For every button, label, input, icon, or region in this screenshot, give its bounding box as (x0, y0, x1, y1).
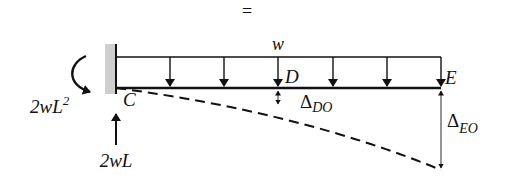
fixed-wall-support (105, 44, 116, 94)
deflection-d-label: ΔDO (300, 91, 332, 115)
equals-sign: = (242, 1, 252, 21)
load-label: w (272, 34, 284, 54)
force-reaction-label: 2wL (100, 150, 133, 171)
moment-reaction-label: 2wL2 (30, 93, 70, 117)
deflection-e-label: ΔEO (447, 110, 478, 136)
point-label-c: C (123, 89, 136, 110)
deflected-shape-curve (116, 88, 441, 170)
point-label-d: D (284, 66, 299, 87)
distributed-load (116, 57, 441, 86)
point-label-e: E (444, 67, 457, 88)
beam-diagram: = w D E C ΔDO ΔEO 2wL2 2wL (0, 0, 508, 182)
moment-reaction-arrow-icon (72, 56, 90, 92)
